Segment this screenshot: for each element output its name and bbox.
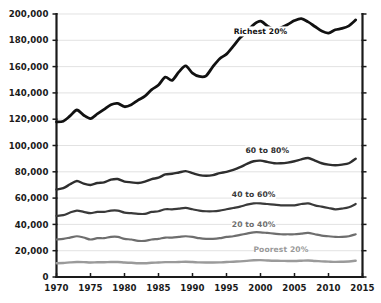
series-label-4: Poorest 20% — [253, 245, 308, 254]
y-axis-tick-label: 100,000 — [9, 141, 49, 151]
y-axis-tick-label: 180,000 — [9, 35, 49, 45]
series-label-0: Richest 20% — [234, 27, 288, 36]
series-label-3: 20 to 40% — [232, 220, 276, 229]
x-axis-tick-label: 2005 — [282, 283, 306, 293]
x-axis-tick-label: 1990 — [180, 283, 204, 293]
y-axis-tick-label: 140,000 — [9, 88, 49, 98]
line-chart: 020,00040,00060,00080,000100,000120,0001… — [0, 0, 381, 303]
x-axis-tick-label: 1985 — [146, 283, 170, 293]
y-axis-tick-label: 80,000 — [15, 167, 49, 177]
x-axis-tick-label: 1975 — [78, 283, 102, 293]
y-axis-tick-label: 120,000 — [9, 114, 49, 124]
y-axis-tick-label: 200,000 — [9, 9, 49, 19]
x-axis-tick-label: 1970 — [44, 283, 68, 293]
y-axis-tick-label: 60,000 — [15, 193, 49, 203]
y-axis-tick-label: 0 — [42, 272, 48, 282]
series-label-1: 60 to 80% — [245, 146, 289, 155]
x-axis-tick-label: 2010 — [316, 283, 340, 293]
x-axis-tick-label: 1995 — [214, 283, 238, 293]
y-axis-tick-label: 160,000 — [9, 62, 49, 72]
x-axis-tick-label: 1980 — [112, 283, 136, 293]
series-label-2: 40 to 60% — [232, 190, 276, 199]
chart-canvas: 020,00040,00060,00080,000100,000120,0001… — [0, 0, 381, 303]
x-axis-tick-label: 2015 — [350, 283, 374, 293]
y-axis-tick-label: 20,000 — [15, 246, 49, 256]
y-axis-tick-label: 40,000 — [15, 220, 49, 230]
x-axis-tick-label: 2000 — [248, 283, 272, 293]
